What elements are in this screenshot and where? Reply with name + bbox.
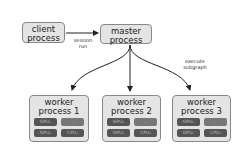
chip-ellipsis: ... xyxy=(204,118,227,126)
chip-ellipsis: ... xyxy=(134,118,157,126)
chip-ellipsis: ... xyxy=(61,118,84,126)
chip-gpu0: GPU₀ xyxy=(34,118,57,126)
chip-cpu0: CPU₀ xyxy=(61,129,84,137)
chip-gpu1: GPU₁ xyxy=(107,129,130,137)
chip-gpu0: GPU₀ xyxy=(107,118,130,126)
worker-process-2: worker process 2 GPU₀ ... GPU₁ CPU₀ xyxy=(102,95,161,142)
worker-process-3: worker process 3 GPU₀ ... GPU₁ CPU₀ xyxy=(172,95,231,142)
chip-cpu0: CPU₀ xyxy=(134,129,157,137)
session-run-label: session run xyxy=(68,37,98,49)
worker-process-1: worker process 1 GPU₀ ... GPU₁ CPU₀ xyxy=(29,95,89,142)
master-line2: process xyxy=(101,36,151,45)
client-line2: process xyxy=(23,34,64,43)
chip-gpu1: GPU₁ xyxy=(177,129,200,137)
execute-subgraph-label: execute subgraph xyxy=(175,58,215,70)
chip-cpu0: CPU₀ xyxy=(204,129,227,137)
chip-gpu0: GPU₀ xyxy=(177,118,200,126)
chip-gpu1: GPU₁ xyxy=(34,129,57,137)
client-process-box: client process xyxy=(22,22,65,43)
master-process-box: master process xyxy=(100,24,152,44)
